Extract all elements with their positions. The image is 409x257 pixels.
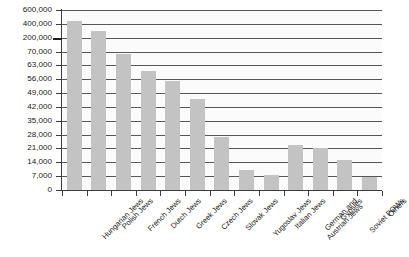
y-axis-tick	[56, 121, 62, 122]
gridline	[62, 93, 382, 94]
gridline	[62, 121, 382, 122]
bar	[362, 177, 377, 190]
bar	[313, 148, 328, 190]
y-axis-tick-label: 0	[0, 186, 52, 194]
y-axis-tick	[56, 176, 62, 177]
x-axis-tick	[382, 191, 383, 196]
y-axis-tick-label: 42,000	[0, 103, 52, 111]
y-axis-tick-label: 70,000	[0, 48, 52, 56]
y-axis-tick-label: 28,000	[0, 131, 52, 139]
bar	[288, 145, 303, 190]
y-axis-tick-label: 21,000	[0, 144, 52, 152]
y-axis-tick-label: 35,000	[0, 117, 52, 125]
bar	[91, 31, 106, 190]
y-axis-tick	[56, 148, 62, 149]
x-axis-tick	[87, 191, 88, 196]
y-axis-tick	[56, 24, 62, 25]
x-axis-tick	[62, 191, 63, 196]
y-axis-tick	[56, 162, 62, 163]
gridline	[62, 79, 382, 80]
bar	[264, 175, 279, 190]
y-axis-tick-label: 400,000	[0, 20, 52, 28]
y-axis-tick-label: 200,000	[0, 34, 52, 42]
y-axis-tick-label: 14,000	[0, 158, 52, 166]
x-axis-tick	[160, 191, 161, 196]
y-axis-tick	[56, 10, 62, 11]
gridline	[62, 10, 382, 11]
y-axis-tick	[56, 107, 62, 108]
bar	[337, 160, 352, 190]
y-axis-tick	[56, 52, 62, 53]
x-axis-tick	[234, 191, 235, 196]
x-axis-tick-label-line: Others	[387, 197, 409, 219]
gridline	[62, 65, 382, 66]
y-axis-tick-label: 600,000	[0, 6, 52, 14]
y-axis-tick	[56, 65, 62, 66]
bar	[67, 21, 82, 190]
y-axis-tick	[53, 38, 62, 40]
x-axis-tick	[308, 191, 309, 196]
bar	[165, 81, 180, 190]
x-axis-tick	[185, 191, 186, 196]
gridline	[62, 135, 382, 136]
bar	[214, 137, 229, 190]
y-axis-tick	[56, 79, 62, 80]
bar	[116, 54, 131, 190]
x-axis-tick	[333, 191, 334, 196]
plot-area	[62, 10, 382, 190]
bar	[190, 99, 205, 190]
gridline	[62, 52, 382, 53]
x-axis-tick	[284, 191, 285, 196]
gridline	[62, 24, 382, 25]
y-axis-tick-label: 63,000	[0, 61, 52, 69]
y-axis-tick	[56, 135, 62, 136]
y-axis-tick-label: 49,000	[0, 89, 52, 97]
gridline	[62, 38, 382, 39]
x-axis-tick	[210, 191, 211, 196]
bar	[141, 71, 156, 190]
y-axis-labels: 600,000400,000200,00070,00063,00056,0004…	[0, 0, 52, 257]
x-axis-tick	[259, 191, 260, 196]
y-axis-tick-label: 7,000	[0, 172, 52, 180]
y-axis-tick-label: 56,000	[0, 75, 52, 83]
bar	[239, 170, 254, 190]
y-axis-tick	[56, 93, 62, 94]
x-axis-tick	[136, 191, 137, 196]
x-axis-tick-label: Others	[387, 197, 409, 219]
x-axis-tick	[111, 191, 112, 196]
x-axis-tick	[357, 191, 358, 196]
gridline	[62, 107, 382, 108]
